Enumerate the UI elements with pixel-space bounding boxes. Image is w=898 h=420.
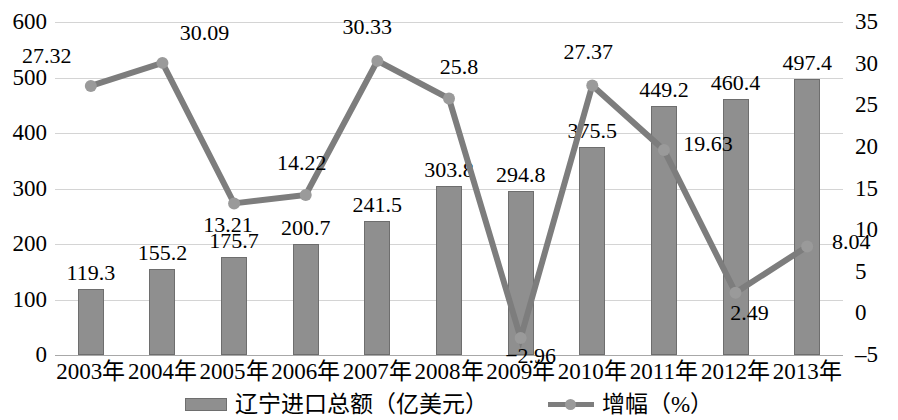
legend-entry-bar[interactable]: 辽宁进口总额（亿美元） (185, 393, 488, 416)
category-label-2005年: 2005年 (200, 358, 269, 386)
category-label-2013年: 2013年 (773, 358, 842, 386)
line-data-label-2013年: 8.04 (806, 231, 896, 253)
line-data-label-2006年: 14.22 (257, 152, 347, 174)
category-axis: 2003年2004年2005年2006年2007年2008年2009年2010年… (55, 358, 843, 388)
left-axis-tick-500: 500 (13, 66, 48, 89)
line-data-label-2011年: 19.63 (663, 133, 753, 155)
category-label-2003年: 2003年 (56, 358, 125, 386)
left-axis-tick-600: 600 (13, 10, 48, 33)
right-axis-tick-30: 30 (855, 52, 878, 75)
right-axis-tick-15: 15 (855, 177, 878, 200)
right-axis-tick-25: 25 (855, 93, 878, 116)
line-data-label-2005年: 13.21 (183, 214, 273, 236)
category-label-2009年: 2009年 (486, 358, 555, 386)
line-data-label-2012年: 2.49 (705, 302, 795, 324)
left-axis-tick-300: 300 (13, 177, 48, 200)
left-axis-tick-400: 400 (13, 121, 48, 144)
category-label-2008年: 2008年 (415, 358, 484, 386)
legend-entry-line[interactable]: 增幅（%） (548, 393, 713, 416)
category-label-2012年: 2012年 (701, 358, 770, 386)
gridline-0 (55, 355, 843, 356)
category-label-2011年: 2011年 (630, 358, 698, 386)
legend-label-bar: 辽宁进口总额（亿美元） (235, 393, 488, 416)
right-axis-tick-5: 5 (855, 260, 867, 283)
left-axis-tick-100: 100 (13, 288, 48, 311)
right-axis-tick--5: –5 (855, 343, 878, 366)
category-label-2010年: 2010年 (558, 358, 627, 386)
line-data-label-2010年: 27.37 (543, 41, 633, 63)
right-axis-tick-0: 0 (855, 301, 867, 324)
line-data-label-2003年: 27.32 (2, 45, 92, 67)
category-label-2004年: 2004年 (128, 358, 197, 386)
line-data-label-2007年: 30.33 (322, 16, 412, 38)
line-data-label-2004年: 30.09 (159, 22, 249, 44)
left-axis-tick-200: 200 (13, 232, 48, 255)
plot-area: 119.3155.2175.7200.7241.5303.8294.8375.5… (55, 22, 843, 355)
line-marker-icon (548, 397, 594, 411)
line-swatch-dot (565, 399, 576, 410)
line-marker-2010年[interactable] (586, 80, 598, 92)
line-marker-2006年[interactable] (300, 189, 312, 201)
category-label-2006年: 2006年 (271, 358, 340, 386)
right-axis-tick-20: 20 (855, 135, 878, 158)
chart-container: 0100200300400500600 –505101520253035 119… (0, 0, 898, 420)
line-marker-2005年[interactable] (228, 197, 240, 209)
legend-label-line: 增幅（%） (602, 393, 713, 416)
right-value-axis: –505101520253035 (855, 0, 898, 420)
category-label-2007年: 2007年 (343, 358, 412, 386)
chart-legend: 辽宁进口总额（亿美元） 增幅（%） (0, 388, 898, 420)
line-marker-2008年[interactable] (443, 93, 455, 105)
left-axis-tick-0: 0 (36, 343, 48, 366)
right-axis-tick-35: 35 (855, 10, 878, 33)
bar-swatch-icon (185, 398, 227, 411)
line-data-label-2008年: 25.8 (414, 56, 504, 78)
line-marker-2004年[interactable] (156, 57, 168, 69)
line-marker-2007年[interactable] (371, 55, 383, 67)
line-marker-2012年[interactable] (730, 287, 742, 299)
line-marker-2003年[interactable] (85, 80, 97, 92)
